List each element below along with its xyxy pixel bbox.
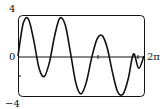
function-curve [18,18,144,96]
plot-area [0,0,166,109]
plot-frame [19,16,145,97]
